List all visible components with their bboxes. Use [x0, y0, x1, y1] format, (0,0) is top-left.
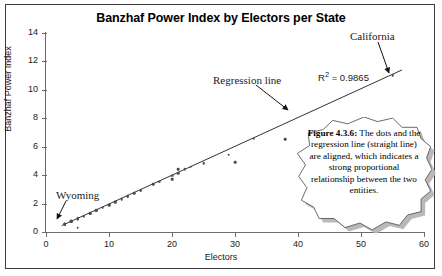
y-axis-tick-label: 12 — [28, 55, 38, 65]
y-axis-tick-label: 4 — [33, 169, 38, 179]
scatter-point — [284, 138, 287, 141]
scatter-point — [139, 189, 142, 192]
y-axis-tick-label: 0 — [33, 226, 38, 236]
scatter-point — [133, 192, 136, 195]
x-axis-tick-label: 50 — [356, 239, 366, 249]
y-axis-tick: 8 — [42, 118, 47, 119]
scatter-point — [83, 215, 86, 218]
y-axis-tick-label: 10 — [28, 84, 38, 94]
callout-body-text: The dots and the regression line (straig… — [310, 128, 421, 195]
scatter-point — [76, 217, 79, 220]
y-axis-tick: 4 — [42, 175, 47, 176]
y-axis-tick: 12 — [42, 61, 47, 62]
callout-text: Figure 4.3.6: The dots and the regressio… — [306, 128, 422, 196]
r-squared-r: R — [318, 72, 325, 83]
scatter-point — [108, 203, 111, 206]
scatter-point — [177, 168, 180, 171]
x-axis-tick — [235, 232, 236, 237]
y-axis-tick-label: 8 — [33, 112, 38, 122]
scatter-point — [234, 161, 237, 164]
y-axis-tick: 6 — [42, 147, 47, 148]
annotation-wyoming: Wyoming — [56, 189, 99, 201]
figure-root: Banzhaf Power Index by Electors per Stat… — [0, 0, 442, 276]
scatter-point — [76, 226, 79, 229]
callout-heading: Figure 4.3.6: — [308, 128, 358, 138]
scatter-point — [190, 166, 193, 169]
x-axis-tick-label: 60 — [419, 239, 429, 249]
y-axis-tick: 10 — [42, 90, 47, 91]
scatter-point — [152, 183, 155, 186]
x-axis-tick-label: 0 — [43, 239, 48, 249]
y-axis-tick-label: 6 — [33, 141, 38, 151]
y-axis-tick-label: 2 — [33, 198, 38, 208]
r-squared-value: = 0.9865 — [329, 72, 369, 83]
annotation-california: California — [350, 30, 395, 42]
scatter-point — [202, 162, 205, 165]
scatter-point — [171, 174, 174, 177]
scatter-point — [127, 195, 130, 198]
scatter-point — [70, 220, 73, 223]
scatter-point — [177, 172, 180, 175]
figure-callout: Figure 4.3.6: The dots and the regressio… — [296, 117, 436, 235]
x-axis-tick — [109, 232, 110, 237]
y-axis-label: Banzhaf Power Index — [3, 29, 13, 149]
scatter-point — [89, 212, 92, 215]
scatter-point — [171, 178, 174, 181]
x-axis-tick-label: 40 — [293, 239, 303, 249]
y-axis-tick: 14 — [42, 33, 47, 34]
scatter-point — [95, 209, 98, 212]
r-squared-label: R2 = 0.9865 — [318, 70, 369, 83]
scatter-point — [64, 222, 67, 225]
scatter-point — [227, 153, 230, 156]
scatter-point — [183, 168, 186, 171]
scatter-point — [101, 207, 104, 210]
scatter-point — [158, 180, 161, 183]
scatter-point — [120, 198, 123, 201]
y-axis-tick-label: 14 — [28, 27, 38, 37]
chart-title: Banzhaf Power Index by Electors per Stat… — [0, 11, 442, 25]
annotation-regression-line: Regression line — [213, 74, 281, 86]
scatter-point — [114, 201, 117, 204]
y-axis-tick: 2 — [42, 204, 47, 205]
scatter-point — [391, 74, 394, 77]
x-axis-tick — [46, 232, 47, 237]
x-axis-tick-label: 10 — [104, 239, 114, 249]
scatter-point — [253, 138, 256, 141]
x-axis-tick-label: 30 — [230, 239, 240, 249]
x-axis-tick-label: 20 — [167, 239, 177, 249]
x-axis-label: Electors — [0, 252, 442, 262]
x-axis-tick — [172, 232, 173, 237]
